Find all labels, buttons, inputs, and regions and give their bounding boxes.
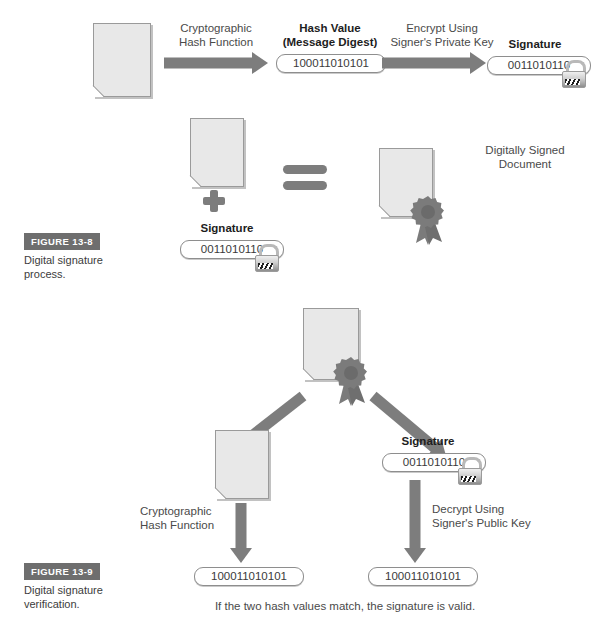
equals-icon [283,165,327,190]
arrow-hash-to-signature [382,52,486,74]
arrow-decrypt-down [404,480,426,563]
padlock-icon-verify [457,457,481,483]
arrow-head [404,548,426,563]
source-document-icon [93,23,151,97]
arrow-head [230,548,252,563]
plus-icon [203,190,225,212]
encrypt-label-line1: Encrypt Using [406,22,478,34]
padlock-hatching [258,263,273,269]
certificate-seal-icon-verify [331,354,371,406]
document-icon-combine [190,118,244,187]
diagram-canvas: Cryptographic Hash Function Hash Value (… [0,0,600,621]
decrypted-hash-pill: 100011010101 [368,567,478,586]
figure-13-9-badge: FIGURE 13-9 [24,563,100,580]
arrow-shaft [164,58,254,69]
hash-function-label-line2: Hash Function [140,519,214,531]
padlock-hatching [565,79,580,85]
hash-function-label-line2: Hash Function [179,36,253,48]
arrow-hash-down [230,503,252,563]
hash-function-label-top: Cryptographic Hash Function [163,22,269,49]
figure-13-8-caption: Digital signature process. [24,254,144,281]
hash-function-label-line1: Cryptographic [180,22,252,34]
decrypt-label: Decrypt Using Signer's Public Key [432,503,572,530]
equals-bar-bottom [283,181,327,190]
hash-function-label-line1: Cryptographic [140,505,212,517]
padlock-hatching [461,476,476,482]
signed-document-label-line2: Document [499,158,551,170]
hash-value-title: Hash Value (Message Digest) [268,22,392,49]
arrow-shaft [410,480,421,549]
signed-document-label: Digitally Signed Document [463,144,587,171]
figure-13-9-caption: Digital signature verification. [24,584,144,611]
signature-title-combine: Signature [182,222,272,236]
encrypt-label-line2: Signer's Private Key [390,36,493,48]
padlock-icon-top [561,60,585,86]
arrow-shaft [382,58,472,69]
arrow-shaft [236,503,247,549]
equals-bar-top [283,165,327,174]
figure-13-9-caption-block: FIGURE 13-9 Digital signature verificati… [24,561,144,611]
decrypt-label-line2: Signer's Public Key [432,517,531,529]
hash-value-pill: 100011010101 [276,54,386,73]
arrow-head [252,52,268,74]
figure-13-8-caption-block: FIGURE 13-8 Digital signature process. [24,231,144,281]
padlock-icon-combine [254,244,278,270]
hash-value-title-line2: (Message Digest) [283,36,378,48]
certificate-seal-icon-signed [408,193,448,245]
arrow-doc-to-hash [164,52,268,74]
verification-conclusion: If the two hash values match, the signat… [180,600,510,614]
figure-13-8-badge: FIGURE 13-8 [24,233,100,250]
arrow-head [470,52,486,74]
signed-document-label-line1: Digitally Signed [485,144,564,156]
extracted-document-icon [215,430,269,499]
decrypt-label-line1: Decrypt Using [432,503,504,515]
computed-hash-pill: 100011010101 [194,567,304,586]
encrypt-label: Encrypt Using Signer's Private Key [376,22,508,49]
plus-horizontal-bar [203,197,225,205]
hash-value-title-line1: Hash Value [299,22,360,34]
signature-title-verify: Signature [383,435,473,449]
signature-title-top: Signature [490,38,580,52]
